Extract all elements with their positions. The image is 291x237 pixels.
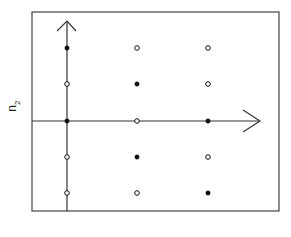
- open-point: [135, 119, 140, 124]
- plot-frame: [32, 12, 279, 211]
- filled-point: [206, 119, 210, 123]
- filled-point: [65, 46, 69, 50]
- y-axis-label: n2: [5, 101, 21, 112]
- y-label-subscript: 2: [13, 101, 22, 105]
- open-point: [206, 46, 211, 51]
- filled-point: [135, 82, 139, 86]
- open-point: [65, 191, 70, 196]
- open-point: [135, 46, 140, 51]
- filled-point: [206, 191, 210, 195]
- open-point: [65, 82, 70, 87]
- lattice-diagram: [0, 0, 291, 237]
- open-point: [135, 191, 140, 196]
- open-point: [206, 82, 211, 87]
- open-point: [65, 155, 70, 160]
- filled-point: [135, 155, 139, 159]
- filled-point: [65, 119, 69, 123]
- open-point: [206, 155, 211, 160]
- y-label-text: n: [5, 105, 19, 112]
